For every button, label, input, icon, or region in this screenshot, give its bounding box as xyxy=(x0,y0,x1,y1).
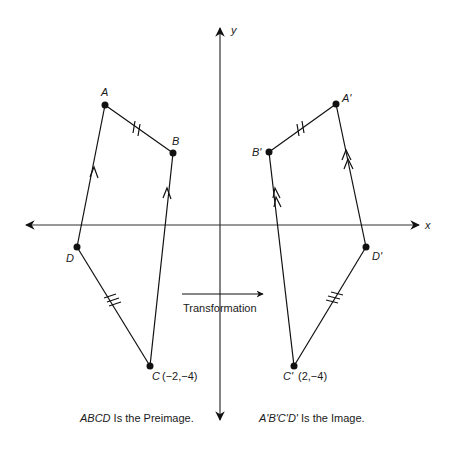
vertex-d xyxy=(74,244,81,251)
image-polygon xyxy=(269,104,366,366)
preimage-polygon xyxy=(77,105,173,366)
label-d: D xyxy=(66,252,74,264)
vertex-c-prime xyxy=(291,363,298,370)
label-a: A xyxy=(100,86,108,98)
x-axis-label: x xyxy=(424,219,431,231)
label-a-prime: A' xyxy=(341,92,352,104)
label-b-prime: B' xyxy=(252,146,262,158)
preimage-caption: ABCD Is the Preimage. xyxy=(79,412,194,424)
label-b: B xyxy=(172,135,179,147)
label-d-prime: D' xyxy=(372,250,383,262)
label-c-prime: C' xyxy=(283,370,294,382)
vertex-d-prime xyxy=(363,244,370,251)
image-caption: A'B'C'D' Is the Image. xyxy=(258,412,365,424)
label-c-prime-coords: (2,−4) xyxy=(298,370,327,382)
coordinate-plane-diagram: x y A B C (−2,−4) D xyxy=(0,0,454,449)
label-c: C xyxy=(152,370,160,382)
vertex-a xyxy=(102,102,109,109)
y-axis-label: y xyxy=(230,24,238,36)
vertex-c xyxy=(147,363,154,370)
preimage-vertices xyxy=(74,102,177,370)
vertex-b-prime xyxy=(266,149,273,156)
vertex-a-prime xyxy=(333,101,340,108)
transformation-label: Transformation xyxy=(183,302,257,314)
image-vertices xyxy=(266,101,370,370)
vertex-b xyxy=(170,150,177,157)
label-c-coords: (−2,−4) xyxy=(162,370,197,382)
